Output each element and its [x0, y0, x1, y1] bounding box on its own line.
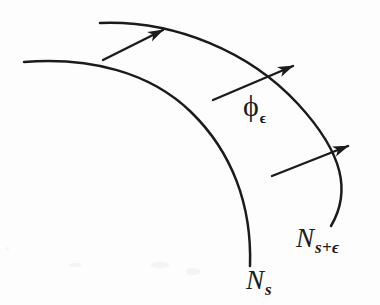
inner-curve: [24, 61, 250, 266]
outer-curve-symbol: N: [296, 223, 314, 253]
scan-artifact: [69, 263, 81, 267]
outer-curve-label: Ns+ϵ: [296, 225, 339, 252]
inner-curve-label: Ns: [246, 267, 271, 294]
outer-curve-subscript: s+ϵ: [315, 238, 340, 257]
outer-curve: [100, 23, 342, 226]
scan-artifact: [186, 268, 200, 275]
inner-curve-symbol: N: [246, 265, 264, 295]
inner-curve-subscript: s: [265, 280, 272, 299]
diagram-canvas: [0, 0, 380, 305]
flow-map-label: ϕϵ: [243, 91, 265, 121]
flow-map-symbol: ϕ: [243, 89, 259, 122]
flow-map-subscript: ϵ: [260, 110, 267, 126]
figure-root: ϕϵ Ns Ns+ϵ: [0, 0, 380, 305]
scan-artifact: [6, 247, 9, 250]
arrow-top: [103, 30, 163, 60]
scan-artifact: [151, 262, 169, 268]
